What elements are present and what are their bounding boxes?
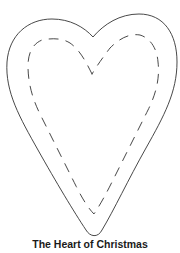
heart-stitch-line bbox=[28, 35, 159, 214]
figure-caption: The Heart of Christmas bbox=[0, 238, 180, 250]
heart-pattern-illustration bbox=[0, 0, 180, 240]
heart-outline bbox=[7, 14, 177, 236]
